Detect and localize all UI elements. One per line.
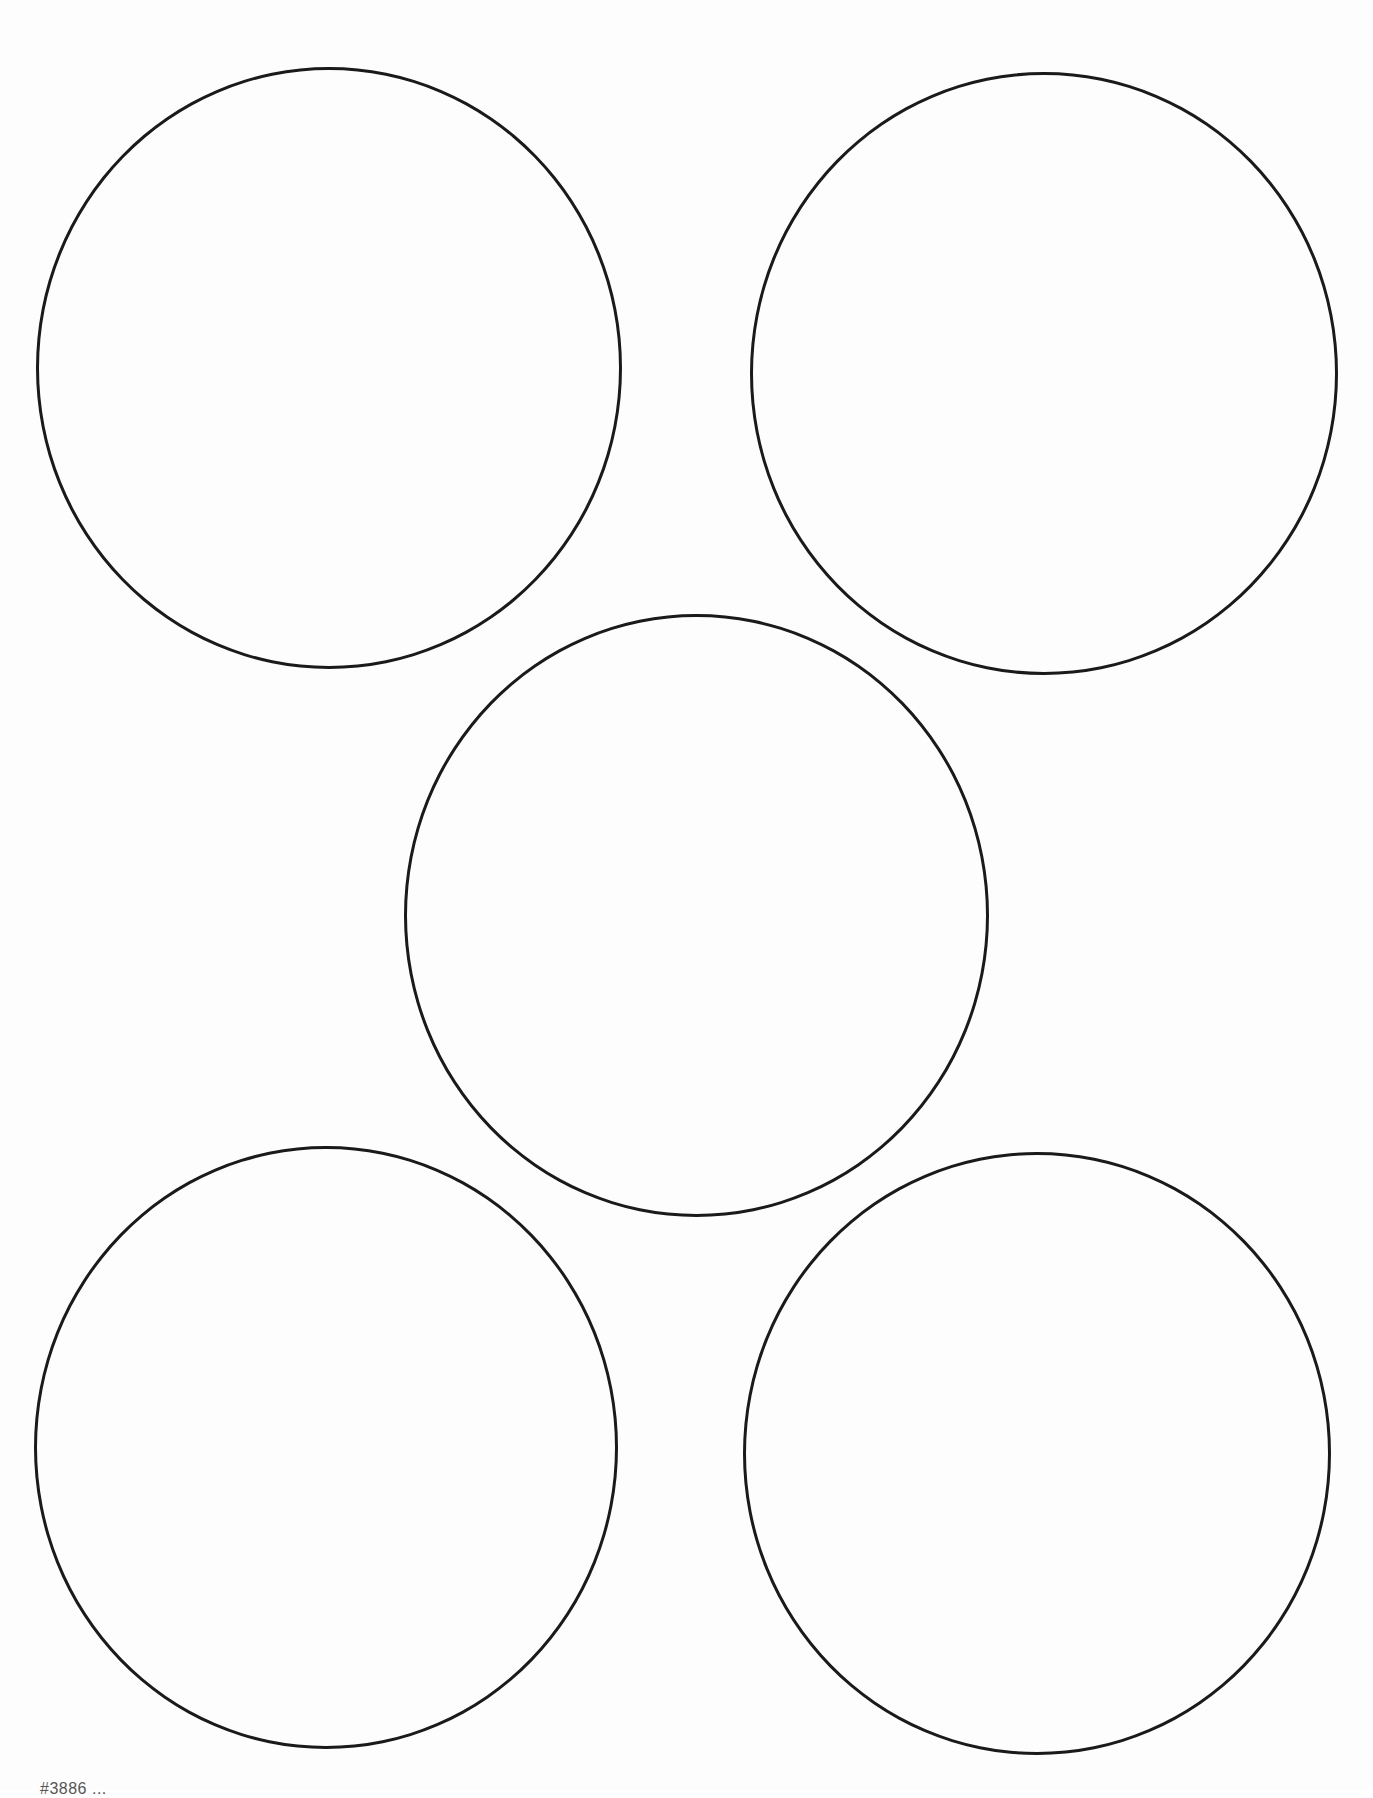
circle-outline-bottom-right: [743, 1152, 1331, 1755]
circle-outline-center: [404, 614, 989, 1217]
circle-outline-top-left: [36, 67, 622, 669]
circle-outline-bottom-left: [34, 1146, 618, 1749]
footer-caption: #3886 ...: [40, 1780, 107, 1798]
circle-outline-top-right: [750, 72, 1338, 675]
